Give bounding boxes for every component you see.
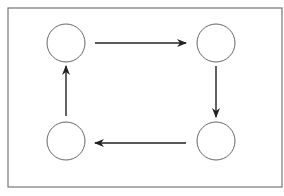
node-top-right — [197, 24, 235, 62]
node-bottom-right — [197, 122, 235, 160]
node-top-left — [47, 24, 85, 62]
cycle-diagram — [0, 0, 284, 196]
node-bottom-left — [47, 122, 85, 160]
